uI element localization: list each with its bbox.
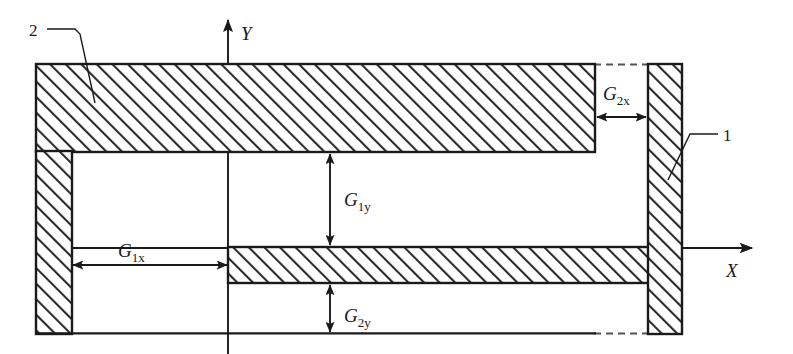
dimension-g2x-symbol: G [603,83,617,104]
dimension-g1x-symbol: G [118,240,132,261]
right-vertical-bar-part-1 [648,64,682,334]
x-axis-label: X [725,260,739,281]
dimension-g1x-subscript: 1x [132,250,146,265]
diagram-canvas: Y X 2 1 G1x G2x G1y G2y [0,0,793,354]
technical-diagram: Y X 2 1 G1x G2x G1y G2y [0,0,793,354]
dimension-g2y-symbol: G [344,305,358,326]
top-bar-hatched [36,64,595,152]
right-bar-hatched [648,64,682,334]
callout-2-label: 2 [29,21,38,40]
dimension-g1y-subscript: 1y [358,199,372,214]
middle-bar-hatched [228,247,650,283]
left-bar-hatched [36,151,72,334]
callout-1-label: 1 [723,126,732,145]
dimension-g2x-subscript: 2x [617,93,631,108]
middle-tongue-bar [228,247,650,283]
dimension-g1y-symbol: G [344,189,358,210]
dimension-g2y-subscript: 2y [358,315,372,330]
